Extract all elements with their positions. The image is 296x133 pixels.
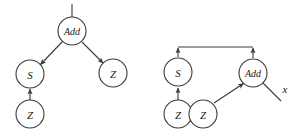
edge-add-to-x: [263, 83, 281, 101]
node-s[interactable]: S: [164, 58, 192, 86]
edge-add-to-s: [41, 42, 63, 65]
node-label: Z: [110, 68, 117, 80]
node-z-bottom[interactable]: Z: [16, 100, 44, 128]
free-variable-label: x: [282, 83, 288, 95]
node-s[interactable]: S: [16, 60, 44, 88]
edge-add-to-z: [82, 42, 103, 63]
node-add[interactable]: Add: [239, 59, 267, 87]
node-add[interactable]: Add: [58, 17, 86, 45]
node-label: Z: [27, 109, 34, 121]
node-label: Add: [63, 26, 81, 37]
node-label: Z: [200, 109, 207, 121]
node-z-right[interactable]: Z: [99, 59, 127, 87]
figure-canvas: Add S Z Z: [0, 0, 296, 133]
graph-diagram-svg: Add S Z Z: [0, 0, 296, 133]
node-label: S: [27, 69, 33, 81]
right-graph: S Add Z Z x: [164, 47, 288, 128]
node-z-left[interactable]: Z: [164, 100, 192, 128]
node-label: Add: [244, 68, 262, 79]
node-label: Z: [175, 109, 182, 121]
left-graph: Add S Z Z: [16, 4, 127, 128]
edge-z2-to-add: [214, 84, 244, 104]
node-z-right[interactable]: Z: [189, 100, 217, 128]
node-label: S: [175, 67, 181, 79]
